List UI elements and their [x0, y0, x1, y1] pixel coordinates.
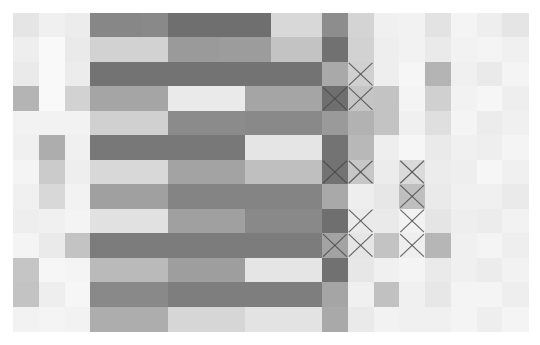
heatmap-cell [168, 86, 194, 111]
heatmap-cell [219, 13, 245, 38]
heatmap-cell [65, 209, 91, 234]
heatmap-cell [399, 62, 425, 87]
heatmap-cell [219, 184, 245, 209]
heatmap-cell [219, 86, 245, 111]
heatmap-cell [39, 62, 65, 87]
heatmap-cell [425, 37, 451, 62]
heatmap-cell [399, 307, 425, 332]
heatmap-cell [65, 62, 91, 87]
heatmap-cell [116, 86, 142, 111]
heatmap-cell [219, 233, 245, 258]
heatmap-cell [322, 13, 348, 38]
heatmap-cell [374, 111, 400, 136]
heatmap-cell [451, 184, 477, 209]
heatmap-cell [219, 62, 245, 87]
heatmap-cell [90, 209, 116, 234]
heatmap-cell [245, 62, 271, 87]
heatmap-cell [271, 307, 297, 332]
heatmap-cell [348, 13, 374, 38]
heatmap-cell [168, 111, 194, 136]
heatmap-cell [13, 62, 39, 87]
heatmap-cell [90, 37, 116, 62]
heatmap-cell [374, 233, 400, 258]
heatmap-cell [451, 282, 477, 307]
heatmap-cell [193, 233, 219, 258]
heatmap-cell [271, 62, 297, 87]
heatmap-cell [90, 135, 116, 160]
heatmap-cell [142, 258, 168, 283]
heatmap-cell [219, 135, 245, 160]
heatmap-cell [477, 13, 503, 38]
heatmap-cell [399, 184, 425, 209]
heatmap-cell [348, 282, 374, 307]
heatmap-cell [245, 184, 271, 209]
heatmap-cell [39, 282, 65, 307]
heatmap-cell [322, 111, 348, 136]
heatmap-cell [502, 111, 528, 136]
heatmap-cell [39, 160, 65, 185]
heatmap-cell [116, 135, 142, 160]
heatmap-cell [142, 282, 168, 307]
heatmap-cell [296, 13, 322, 38]
heatmap-cell [296, 37, 322, 62]
heatmap-cell [168, 282, 194, 307]
heatmap-cell [193, 258, 219, 283]
heatmap-cell [322, 233, 348, 258]
heatmap-cell [348, 184, 374, 209]
heatmap-cell [451, 233, 477, 258]
heatmap-cell [90, 86, 116, 111]
heatmap-cell [39, 307, 65, 332]
heatmap-cell [193, 62, 219, 87]
heatmap-cell [271, 282, 297, 307]
heatmap-cell [348, 160, 374, 185]
heatmap-cell [399, 86, 425, 111]
heatmap-cell [271, 86, 297, 111]
heatmap-cell [193, 184, 219, 209]
heatmap-cell [425, 184, 451, 209]
heatmap-cell [245, 160, 271, 185]
heatmap-cell [142, 86, 168, 111]
heatmap-cell [477, 209, 503, 234]
heatmap-cell [374, 86, 400, 111]
heatmap-cell [168, 37, 194, 62]
heatmap-cell [168, 62, 194, 87]
heatmap-cell [348, 135, 374, 160]
heatmap-cell [245, 135, 271, 160]
heatmap-cell [193, 37, 219, 62]
heatmap-cell [502, 209, 528, 234]
heatmap-cell [13, 233, 39, 258]
heatmap-cell [271, 111, 297, 136]
heatmap-cell [116, 307, 142, 332]
heatmap-cell [271, 13, 297, 38]
heatmap-cell [142, 13, 168, 38]
heatmap-cell [39, 184, 65, 209]
heatmap-cell [425, 62, 451, 87]
heatmap-cell [116, 111, 142, 136]
heatmap-cell [90, 184, 116, 209]
heatmap-cell [399, 37, 425, 62]
heatmap-cell [348, 307, 374, 332]
heatmap-cell [502, 184, 528, 209]
heatmap-cell [322, 62, 348, 87]
heatmap-cell [142, 233, 168, 258]
heatmap-cell [399, 233, 425, 258]
heatmap-cell [193, 307, 219, 332]
heatmap-cell [65, 233, 91, 258]
heatmap-cell [451, 13, 477, 38]
heatmap-cell [271, 135, 297, 160]
heatmap-cell [322, 209, 348, 234]
heatmap-cell [348, 62, 374, 87]
heatmap-cell [90, 233, 116, 258]
heatmap-cell [296, 160, 322, 185]
heatmap-cell [13, 184, 39, 209]
heatmap-cell [296, 282, 322, 307]
heatmap-cell [116, 160, 142, 185]
heatmap-cell [502, 37, 528, 62]
heatmap-cell [348, 209, 374, 234]
heatmap-cell [451, 62, 477, 87]
heatmap-cell [322, 184, 348, 209]
heatmap-cell [322, 282, 348, 307]
heatmap-cell [13, 13, 39, 38]
heatmap-cell [142, 209, 168, 234]
heatmap-cell [219, 209, 245, 234]
